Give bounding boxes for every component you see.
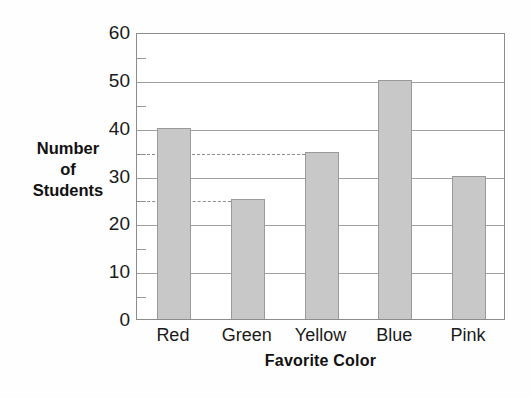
x-tick-label-green: Green [210,325,284,345]
bar-red [157,128,191,319]
y-tick-label-20: 20 [96,214,130,233]
y-tick-label-0: 0 [96,310,130,329]
y-axis-tick-labels: 0102030405060 [92,33,130,320]
y-tick-label-40: 40 [96,119,130,138]
gridline-y-50 [137,82,504,83]
x-axis-title: Favorite Color [136,352,505,370]
x-tick-label-pink: Pink [431,325,505,345]
y-tick-label-30: 30 [96,167,130,186]
x-tick-label-red: Red [136,325,210,345]
bleedthrough-line-2 [10,19,61,34]
gridline-y-40 [137,130,504,131]
chart-page: Number of Students 0102030405060 RedGree… [0,0,531,398]
x-tick-label-blue: Blue [357,325,431,345]
plot-area [136,33,505,320]
y-tick-label-60: 60 [96,23,130,42]
bar-pink [452,176,486,320]
tick-minor-y-15 [137,249,146,250]
bar-yellow [305,152,339,319]
x-tick-label-yellow: Yellow [284,325,358,345]
bleedthrough-line-1 [26,2,110,17]
y-tick-label-50: 50 [96,71,130,90]
bar-blue [378,80,412,319]
tick-minor-y-45 [137,106,146,107]
tick-minor-y-5 [137,297,146,298]
bar-green [231,199,265,319]
y-tick-label-10: 10 [96,262,130,281]
scan-bleedthrough-artifact [0,0,531,34]
tick-minor-y-55 [137,58,146,59]
